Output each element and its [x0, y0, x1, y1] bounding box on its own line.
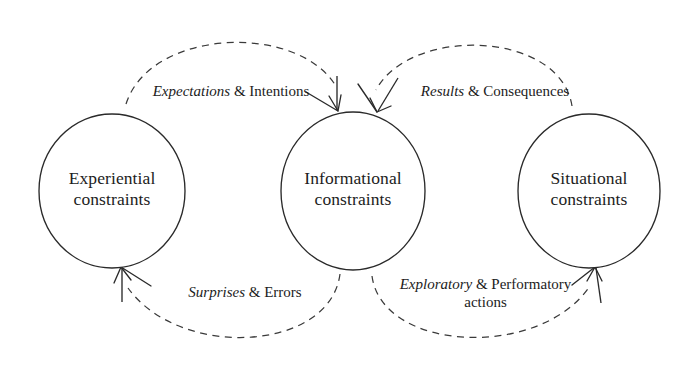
arc-surprises: [128, 274, 340, 338]
arc-results: [376, 45, 572, 106]
arrowhead-expectations: [306, 76, 341, 111]
arrowhead-surprises: [114, 267, 151, 302]
constraints-cycle-diagram: Experiential constraints Informational c…: [0, 0, 691, 381]
node-experiential-constraints[interactable]: [39, 114, 185, 268]
arc-expectations: [126, 42, 337, 104]
node-informational-constraints[interactable]: [281, 112, 425, 270]
diagram-canvas: [0, 0, 691, 381]
arrowhead-exploratory: [572, 267, 602, 303]
arrowhead-results: [358, 78, 398, 112]
node-situational-constraints[interactable]: [518, 114, 660, 268]
arc-exploratory: [372, 276, 590, 337]
